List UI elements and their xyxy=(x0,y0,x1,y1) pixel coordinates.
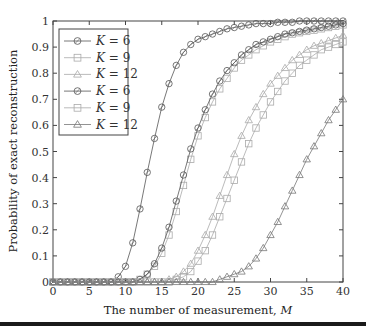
y-tick-label: 0.7 xyxy=(32,93,50,106)
x-tick-label: 40 xyxy=(336,285,350,298)
y-tick-label: 0.5 xyxy=(32,146,50,159)
triangle-marker-icon xyxy=(187,278,194,284)
bottom-rule xyxy=(0,322,366,326)
triangle-marker-icon xyxy=(144,278,151,284)
x-axis-title: The number of measurement, M xyxy=(104,303,294,317)
legend: K = 6K = 9K = 12K = 6K = 9K = 12 xyxy=(59,29,138,135)
legend-label: K = 6 xyxy=(95,84,130,98)
x-tick-label: 15 xyxy=(155,285,169,298)
legend-label: K = 9 xyxy=(95,101,130,115)
x-tick-label: 35 xyxy=(300,285,314,298)
y-tick-label: 0 xyxy=(42,276,49,289)
x-tick-label: 30 xyxy=(264,285,278,298)
legend-label: K = 12 xyxy=(95,118,138,132)
y-tick-label: 1 xyxy=(42,15,49,28)
y-tick-label: 0.4 xyxy=(32,172,50,185)
triangle-marker-icon xyxy=(151,278,158,284)
y-tick-label: 0.3 xyxy=(32,198,50,211)
y-tick-label: 0.6 xyxy=(32,119,50,132)
y-tick-label: 0.8 xyxy=(32,67,50,80)
y-tick-label: 0.1 xyxy=(32,250,50,263)
legend-label: K = 6 xyxy=(95,34,130,48)
legend-label: K = 12 xyxy=(95,67,138,81)
triangle-marker-icon xyxy=(238,268,245,274)
x-tick-label: 20 xyxy=(191,285,205,298)
triangle-marker-icon xyxy=(144,278,151,284)
y-tick-label: 0.9 xyxy=(32,41,50,54)
x-tick-label: 25 xyxy=(227,285,241,298)
x-tick-label: 10 xyxy=(119,285,133,298)
y-axis-title: Probability of exact reconstruction xyxy=(6,49,20,252)
triangle-marker-icon xyxy=(151,278,158,284)
x-tick-label: 5 xyxy=(86,285,93,298)
triangle-marker-icon xyxy=(180,278,187,284)
triangle-marker-icon xyxy=(202,278,209,284)
legend-label: K = 9 xyxy=(95,51,130,65)
chart: 051015202530354000.10.20.30.40.50.60.70.… xyxy=(0,0,366,331)
y-tick-label: 0.2 xyxy=(32,224,50,237)
triangle-marker-icon xyxy=(289,56,296,62)
x-tick-label: 0 xyxy=(50,285,57,298)
